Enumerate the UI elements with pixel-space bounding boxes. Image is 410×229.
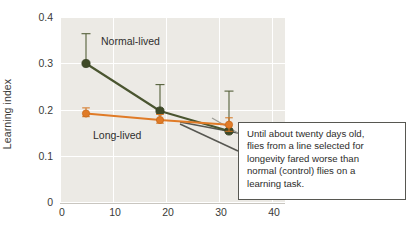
x-tick-label-30: 30: [215, 206, 227, 218]
y-axis-title: Learning index: [1, 79, 13, 149]
callout-line-3: longevity fared worse than: [247, 153, 398, 165]
x-tick-label-0: 0: [59, 206, 65, 218]
x-tick-label-10: 10: [109, 206, 121, 218]
series-label-long-lived: Long-lived: [93, 129, 141, 141]
annotation-callout: Until about twenty days old, flies from …: [238, 122, 406, 200]
x-tick-label-20: 20: [162, 206, 174, 218]
callout-line-4: normal (control) flies on a: [247, 165, 398, 177]
learning-index-figure: 0.4 0.3 0.2 0.1 0 0 10 20 30 40 Learning…: [0, 0, 410, 229]
callout-line-1: Until about twenty days old,: [247, 128, 398, 140]
callout-line-2: flies from a line selected for: [247, 140, 398, 152]
x-tick-label-40: 40: [268, 206, 280, 218]
callout-line-5: learning task.: [247, 178, 398, 190]
series-label-normal-lived: Normal-lived: [101, 35, 160, 47]
